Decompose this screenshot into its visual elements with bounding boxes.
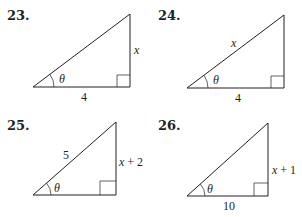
right-angle-marker bbox=[117, 75, 130, 87]
angle-label: θ bbox=[207, 182, 213, 196]
problem-number: 26. bbox=[158, 118, 181, 133]
problem-26: 26. θ x + 1 10 bbox=[158, 118, 296, 213]
problem-number: 25. bbox=[7, 118, 30, 133]
hypotenuse-label: 5 bbox=[63, 148, 69, 162]
adjacent-label: 4 bbox=[235, 91, 241, 105]
right-angle-marker bbox=[100, 181, 116, 195]
opposite-label: x bbox=[133, 43, 140, 57]
right-triangle bbox=[33, 14, 130, 87]
right-triangle bbox=[33, 122, 116, 195]
angle-label: θ bbox=[59, 72, 65, 86]
right-angle-marker bbox=[254, 183, 268, 196]
angle-label: θ bbox=[213, 73, 219, 87]
angle-arc bbox=[200, 184, 205, 196]
problem-25: 25. θ 5 x + 2 bbox=[7, 118, 143, 195]
problem-number: 24. bbox=[158, 8, 181, 23]
right-triangle-figures: 23. θ x 4 24. θ x 4 25. θ 5 x + 2 26. θ … bbox=[0, 0, 302, 217]
angle-arc bbox=[47, 183, 52, 195]
opposite-label: x + 2 bbox=[118, 155, 143, 169]
adjacent-label: 4 bbox=[81, 90, 87, 104]
right-triangle bbox=[187, 123, 268, 196]
opposite-label: x + 1 bbox=[271, 163, 296, 177]
problem-24: 24. θ x 4 bbox=[158, 8, 284, 105]
right-angle-marker bbox=[271, 76, 284, 88]
adjacent-label: 10 bbox=[223, 199, 235, 213]
problem-number: 23. bbox=[7, 8, 30, 23]
problem-23: 23. θ x 4 bbox=[7, 8, 140, 104]
angle-label: θ bbox=[54, 181, 60, 195]
angle-arc bbox=[50, 74, 54, 87]
hypotenuse-label: x bbox=[230, 36, 237, 50]
right-triangle bbox=[187, 15, 284, 88]
angle-arc bbox=[204, 75, 208, 88]
